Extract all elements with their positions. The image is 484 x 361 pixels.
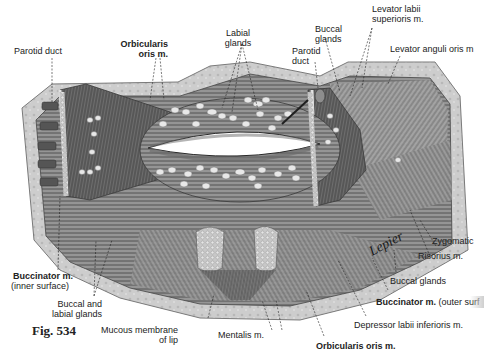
label-buccal-glands-top-line1: Buccal: [315, 24, 342, 34]
mentalis-left: [196, 227, 224, 272]
label-orbicularis-bottom: Orbicularis oris m.: [316, 341, 396, 351]
label-mucous-membrane-line1: Mucous membrane: [96, 325, 178, 335]
label-buccinator-outer: Buccinator m. (outer surf: [376, 297, 480, 307]
label-buccal-labial-glands-line2: labial glands: [40, 309, 102, 319]
label-buccal-labial-glands-line1: Buccal and: [40, 299, 102, 309]
label-buccal-glands-right: Buccal glands: [390, 276, 446, 286]
label-orbicularis-top-line1: Orbicularis: [118, 39, 168, 49]
label-labial-glands-line2: glands: [214, 38, 262, 48]
label-levator-labii-line2: superioris m.: [372, 14, 424, 24]
label-levator-labii-line1: Levator labii: [372, 4, 421, 14]
label-mucous-membrane-line2: of lip: [96, 335, 178, 345]
label-depressor-labii-inferioris: Depressor labii inferioris m.: [354, 320, 463, 330]
label-levator-anguli-oris: Levator anguli oris m: [390, 44, 474, 54]
label-parotid-duct-right-line1: Parotid: [292, 46, 321, 56]
edge-fade: [470, 296, 484, 308]
label-parotid-duct-left: Parotid duct: [14, 46, 62, 56]
label-mentalis: Mentalis m.: [218, 330, 264, 340]
label-buccinator-outer-name: Buccinator m.: [376, 297, 436, 307]
label-buccinator-inner-line2: (inner surface): [11, 281, 69, 291]
label-parotid-duct-right-line2: duct: [292, 56, 309, 66]
label-zygomatic: Zygomatic: [432, 236, 474, 246]
label-labial-glands-line1: Labial: [214, 28, 262, 38]
figure-number: Fig. 534: [32, 323, 76, 339]
label-buccal-glands-top-line2: glands: [315, 34, 342, 44]
label-risorius: Risorius m.: [418, 251, 463, 261]
label-buccinator-inner-line1: Buccinator m.: [13, 271, 73, 281]
label-orbicularis-top-line2: oris m.: [118, 49, 168, 59]
mentalis-right: [254, 226, 278, 272]
